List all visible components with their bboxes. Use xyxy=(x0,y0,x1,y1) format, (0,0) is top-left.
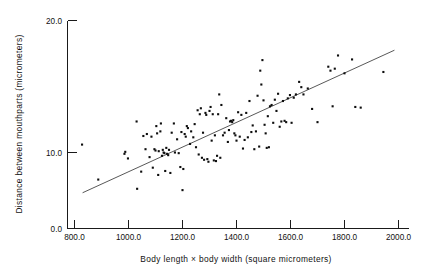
x-tick-label-1600: 1600.0 xyxy=(278,233,303,242)
data-point xyxy=(179,166,181,168)
regression-trendline xyxy=(83,50,395,193)
data-point xyxy=(150,136,152,138)
data-point xyxy=(184,133,186,135)
data-point xyxy=(222,134,224,136)
data-point xyxy=(275,110,277,112)
y-axis-title: Distance between mouthparts (micrometers… xyxy=(14,34,24,213)
data-point xyxy=(267,115,269,117)
data-point xyxy=(194,123,196,125)
data-point xyxy=(225,117,227,119)
data-point xyxy=(262,99,264,101)
data-point xyxy=(240,114,242,116)
data-point xyxy=(334,68,336,70)
data-point xyxy=(264,124,266,126)
data-point xyxy=(351,58,353,60)
y-tick-label-0: 0.0 xyxy=(51,225,63,234)
data-point xyxy=(235,140,237,142)
data-point xyxy=(293,97,295,99)
data-point xyxy=(201,157,203,159)
data-point xyxy=(261,59,263,61)
data-point xyxy=(211,140,213,142)
data-point xyxy=(214,134,216,136)
data-point xyxy=(257,95,259,97)
x-axis-title: Body length × body width (square microme… xyxy=(140,254,331,264)
data-point xyxy=(199,113,201,115)
data-point xyxy=(316,121,318,123)
data-point xyxy=(152,167,154,169)
data-point xyxy=(216,155,218,157)
data-point xyxy=(215,160,217,162)
data-point xyxy=(271,104,273,106)
data-point xyxy=(205,114,207,116)
data-point xyxy=(154,149,156,151)
data-point xyxy=(274,99,276,101)
data-point xyxy=(156,132,158,134)
y-tick-label-10: 10.0 xyxy=(46,149,62,158)
data-point xyxy=(208,110,210,112)
data-point xyxy=(272,122,274,124)
data-point xyxy=(224,132,226,134)
scatter-plot-figure: 20.0 10.0 0.0 800.0 1000.0 1200.0 1400.0… xyxy=(0,0,425,273)
data-point xyxy=(343,72,345,74)
data-point xyxy=(237,111,239,113)
data-point xyxy=(159,130,161,132)
data-point xyxy=(332,105,334,107)
data-point xyxy=(161,155,163,157)
data-point xyxy=(180,131,182,133)
data-point xyxy=(248,100,250,102)
data-point xyxy=(218,93,220,95)
data-point xyxy=(160,122,162,124)
data-point xyxy=(234,134,236,136)
data-point-group xyxy=(81,54,384,191)
data-point xyxy=(212,113,214,115)
data-point xyxy=(252,124,254,126)
data-point xyxy=(258,146,260,148)
data-point xyxy=(169,172,171,174)
data-point xyxy=(311,108,313,110)
data-point xyxy=(198,153,200,155)
data-point xyxy=(239,136,241,138)
data-point xyxy=(279,126,281,128)
data-point xyxy=(127,157,129,159)
data-point xyxy=(204,112,206,114)
y-axis-tick-labels: 20.0 10.0 0.0 xyxy=(46,17,62,234)
data-point xyxy=(266,147,268,149)
data-point xyxy=(178,152,180,154)
data-point xyxy=(168,149,170,151)
data-point xyxy=(291,122,293,124)
data-point xyxy=(382,71,384,73)
data-point xyxy=(327,66,329,68)
x-tick-label-1400: 1400.0 xyxy=(224,233,249,242)
data-point xyxy=(329,70,331,72)
data-point xyxy=(231,121,233,123)
data-point xyxy=(247,136,249,138)
data-point xyxy=(146,133,148,135)
data-point xyxy=(176,138,178,140)
data-point xyxy=(354,106,356,108)
x-tick-label-1800: 1800.0 xyxy=(332,233,357,242)
data-point xyxy=(228,129,230,131)
data-point xyxy=(280,120,282,122)
data-point xyxy=(149,156,151,158)
x-axis-ticks xyxy=(75,220,399,229)
data-point xyxy=(295,93,297,95)
data-point xyxy=(155,125,157,127)
data-point xyxy=(197,109,199,111)
data-point xyxy=(207,161,209,163)
data-point xyxy=(227,141,229,143)
data-point xyxy=(165,147,167,149)
data-point xyxy=(242,147,244,149)
data-point xyxy=(233,132,235,134)
data-point xyxy=(337,54,339,56)
data-point xyxy=(81,144,83,146)
data-point xyxy=(210,106,212,108)
data-point xyxy=(182,168,184,170)
data-point xyxy=(144,148,146,150)
data-point xyxy=(97,179,99,181)
data-point xyxy=(277,93,279,95)
x-axis-tick-labels: 800.0 1000.0 1200.0 1400.0 1600.0 1800.0… xyxy=(64,233,411,242)
data-point xyxy=(190,130,192,132)
data-point xyxy=(265,132,267,134)
data-point xyxy=(195,146,197,148)
data-point xyxy=(136,188,138,190)
